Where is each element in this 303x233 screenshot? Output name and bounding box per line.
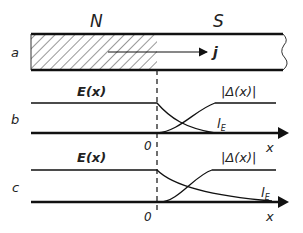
current-label: j	[211, 44, 218, 60]
panel-c-label: c	[12, 180, 19, 195]
origin-label: 0	[144, 139, 152, 153]
delta-label: |Δ(x)|	[221, 150, 257, 165]
axis-label: x	[265, 140, 274, 155]
delta-label: |Δ(x)|	[221, 84, 257, 99]
x-axis-arrowhead-icon	[278, 127, 289, 139]
normal-label: N	[90, 11, 103, 31]
length-label: lE	[261, 185, 271, 202]
e-curve	[31, 103, 215, 133]
panel-a-label: a	[11, 45, 19, 60]
panel-b: b E(x) |Δ(x)| lE 0 x	[11, 84, 289, 155]
delta-curve	[160, 170, 276, 202]
x-axis-arrowhead-icon	[278, 196, 289, 208]
wire-break-edge	[282, 34, 287, 70]
e-label: E(x)	[77, 150, 106, 165]
superconductor-label: S	[213, 11, 224, 31]
length-label: lE	[217, 116, 227, 133]
axis-label: x	[265, 209, 274, 224]
e-curve	[31, 170, 272, 201]
panel-a: a N S j	[11, 11, 287, 70]
ns-junction-diagram: a N S j b E(x) |Δ(x)| lE 0 x c E(x) |Δ(x…	[0, 0, 303, 233]
e-label: E(x)	[77, 84, 106, 99]
panel-c: c E(x) |Δ(x)| lE 0 x	[12, 150, 289, 224]
panel-b-label: b	[11, 112, 19, 127]
origin-label: 0	[144, 210, 152, 224]
